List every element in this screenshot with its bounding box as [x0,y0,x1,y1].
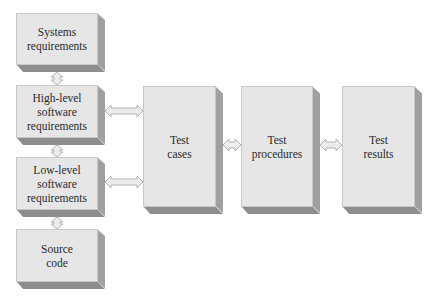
double-arrow-icon [105,105,143,117]
double-arrow-icon [51,145,63,157]
double-arrow-icon [320,139,342,151]
double-arrow-icon [51,72,63,85]
double-arrow-icon [51,217,63,229]
double-arrow-icon [105,176,143,188]
arrows-layer [0,0,430,298]
double-arrow-icon [223,139,241,151]
